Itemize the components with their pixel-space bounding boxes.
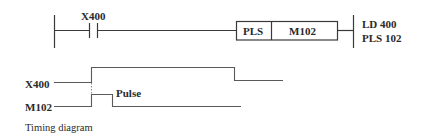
ladder-rung: X400 PLS M102 LD 400 PLS 102	[55, 10, 402, 48]
pulse-label: Pulse	[116, 87, 141, 99]
timing-diagram: X400 M102 Pulse Timing diagram	[25, 68, 283, 134]
signal-label-m102: M102	[25, 101, 52, 113]
signal-label-x400: X400	[25, 78, 50, 90]
mnemonic-line-2: PLS 102	[362, 32, 402, 44]
contact-label: X400	[81, 10, 106, 22]
instruction-label: PLS	[243, 25, 263, 37]
operand-label: M102	[289, 25, 316, 37]
pls-instruction-box: PLS M102	[237, 22, 338, 41]
mnemonic-line-1: LD 400	[362, 18, 397, 30]
x400-waveform	[54, 68, 283, 83]
normally-open-contact-icon	[90, 23, 98, 38]
plc-ladder-and-timing-diagram: X400 PLS M102 LD 400 PLS 102 X400 M102 P…	[0, 0, 424, 136]
m102-waveform	[54, 95, 241, 107]
timing-diagram-caption: Timing diagram	[25, 122, 93, 133]
